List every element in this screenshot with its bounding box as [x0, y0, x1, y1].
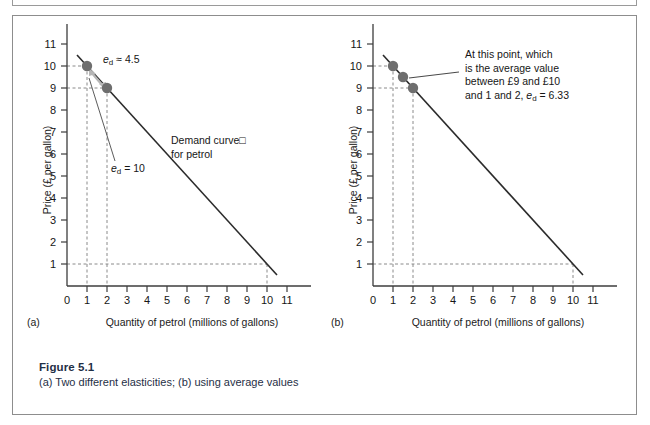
data-point [408, 83, 418, 93]
panel-tag-a: (a) [27, 316, 40, 328]
data-point [102, 83, 112, 93]
svg-text:0: 0 [64, 294, 70, 306]
demand-label-line1: Demand curve□ [171, 134, 246, 146]
callout-line-4-suffix: = 6.33 [537, 89, 569, 101]
svg-text:10: 10 [261, 294, 273, 306]
svg-text:4: 4 [450, 294, 456, 306]
svg-text:11: 11 [45, 38, 56, 50]
callout-line-4: and 1 and 2, ed = 6.33 [465, 89, 569, 101]
page-top-strip [12, 0, 637, 6]
svg-text:4: 4 [144, 294, 150, 306]
plot-area-a: 11 10 9 8 7 6 5 4 3 [19, 16, 329, 316]
callout-leader-line [409, 72, 459, 78]
chart-panel-a: 11 10 9 8 7 6 5 4 3 [19, 16, 329, 356]
x-axis-label-b: Quantity of petrol (millions of gallons) [373, 316, 623, 328]
callout-elasticity-subscript: d [532, 94, 536, 103]
svg-text:7: 7 [204, 294, 210, 306]
svg-text:1: 1 [50, 258, 56, 270]
svg-text:3: 3 [124, 294, 130, 306]
svg-text:0: 0 [370, 294, 376, 306]
x-tick-group: 0 1 2 3 4 5 6 7 8 [370, 286, 599, 306]
callout-line-1: At this point, which [465, 48, 553, 60]
svg-text:5: 5 [470, 294, 476, 306]
data-point-midpoint [398, 72, 408, 82]
callout-line-3: between £9 and £10 [465, 75, 560, 87]
svg-text:1: 1 [356, 258, 362, 270]
annotation-ed-lower: ed = 10 [111, 162, 145, 174]
svg-text:8: 8 [530, 294, 536, 306]
svg-text:11: 11 [587, 294, 598, 306]
annotation-average-value-callout: At this point, which is the average valu… [465, 48, 569, 103]
figure-frame: 11 10 9 8 7 6 5 4 3 [12, 15, 637, 415]
annotation-demand-curve-label: Demand curve□ for petrol [171, 134, 246, 161]
svg-text:9: 9 [550, 294, 556, 306]
svg-text:1: 1 [84, 294, 90, 306]
x-axis-label-a: Quantity of petrol (millions of gallons) [67, 316, 317, 328]
svg-text:9: 9 [244, 294, 250, 306]
x-tick-group: 0 1 2 3 4 5 6 7 8 [64, 286, 293, 306]
svg-text:8: 8 [224, 294, 230, 306]
figure-caption: Figure 5.1 (a) Two different elasticitie… [39, 361, 599, 388]
svg-text:11: 11 [351, 38, 362, 50]
callout-line-4-prefix: and 1 and 2, [465, 89, 526, 101]
svg-text:10: 10 [350, 60, 362, 72]
svg-text:2: 2 [104, 294, 110, 306]
y-axis-label-a: Price (£ per gallon) [41, 90, 53, 250]
svg-text:1: 1 [390, 294, 396, 306]
figure-caption-subtitle: (a) Two different elasticities; (b) usin… [39, 376, 599, 388]
demand-label-line2: for petrol [171, 148, 212, 160]
annotation-ed-upper: ed ≈ 4.5 [103, 53, 140, 65]
chart-panel-b: 11 10 9 8 7 6 5 4 3 [325, 16, 635, 356]
svg-text:10: 10 [567, 294, 579, 306]
svg-text:3: 3 [430, 294, 436, 306]
data-point [388, 61, 398, 71]
svg-text:11: 11 [281, 294, 292, 306]
svg-text:6: 6 [490, 294, 496, 306]
panel-tag-b: (b) [331, 316, 344, 328]
svg-text:2: 2 [410, 294, 416, 306]
svg-text:10: 10 [44, 60, 56, 72]
figure-caption-title: Figure 5.1 [39, 361, 599, 373]
panels-container: 11 10 9 8 7 6 5 4 3 [13, 16, 636, 356]
svg-text:5: 5 [164, 294, 170, 306]
y-axis-label-b: Price (£ per gallon) [347, 90, 359, 250]
callout-line-2: is the average value [465, 62, 559, 74]
svg-text:7: 7 [510, 294, 516, 306]
svg-text:6: 6 [184, 294, 190, 306]
data-point [82, 61, 92, 71]
